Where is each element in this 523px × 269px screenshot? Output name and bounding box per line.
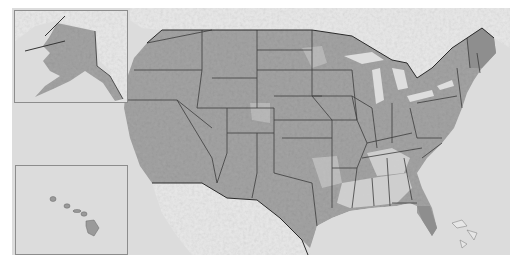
us-map — [12, 8, 510, 255]
molokai — [73, 210, 81, 213]
hawaii-inset — [15, 165, 128, 255]
kauai — [50, 197, 56, 202]
alaska-map — [15, 11, 127, 102]
hawaii-map — [16, 166, 127, 254]
oahu — [64, 204, 70, 208]
maui — [81, 212, 87, 216]
bahamas — [452, 220, 477, 248]
big-island — [86, 220, 99, 236]
alaska-inset — [14, 10, 128, 103]
